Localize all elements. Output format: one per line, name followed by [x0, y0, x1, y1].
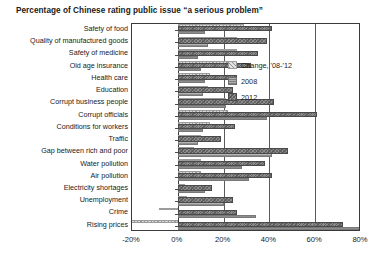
bar-2012	[178, 26, 272, 31]
bar-2012	[178, 51, 258, 56]
bar-2012	[178, 161, 265, 166]
category-label: Education	[0, 86, 128, 94]
category-label: Conditions for workers	[0, 123, 128, 131]
legend-label: 2012	[241, 93, 257, 102]
x-tick-label: 60%	[307, 235, 322, 244]
bar-row	[132, 171, 359, 183]
category-label: Safety of food	[0, 25, 128, 33]
bar-2008	[178, 80, 205, 83]
category-label: Health care	[0, 74, 128, 82]
chart-legend: Change, '08-'1220082012	[228, 58, 306, 106]
bar-row	[132, 195, 359, 207]
category-label: Gap between rich and poor	[0, 147, 128, 155]
bar-change	[131, 220, 178, 222]
bar-row	[132, 208, 359, 220]
bar-2008	[178, 68, 201, 71]
chart-title: Percentage of Chinese rating public issu…	[16, 6, 263, 15]
x-tick-label: 0%	[171, 235, 182, 244]
category-label: Unemployment	[0, 196, 128, 204]
x-tick-label: 80%	[352, 235, 367, 244]
bar-row	[132, 122, 359, 134]
legend-label: Change, '08-'12	[241, 61, 292, 70]
x-tick-label: 40%	[261, 235, 276, 244]
legend-label: 2008	[241, 77, 257, 86]
category-label: Safety of medicine	[0, 49, 128, 57]
bar-2012	[178, 124, 235, 129]
bar-row	[132, 220, 359, 231]
bar-2008	[178, 178, 249, 181]
legend-item: Change, '08-'12	[228, 58, 306, 72]
bar-2012	[178, 185, 212, 190]
x-tick-label: -20%	[122, 235, 140, 244]
category-label: Corrupt business people	[0, 98, 128, 106]
legend-swatch-icon	[228, 61, 237, 69]
legend-item: 2012	[228, 90, 306, 104]
bar-2008	[178, 129, 203, 132]
plot-area	[131, 23, 360, 231]
category-label: Corrupt officials	[0, 111, 128, 119]
bar-row	[132, 110, 359, 122]
bar-row	[132, 134, 359, 146]
category-label: Traffic	[0, 135, 128, 143]
bar-2008	[178, 43, 208, 46]
bar-2012	[178, 173, 272, 178]
category-label: Water pollution	[0, 160, 128, 168]
category-axis-labels: Safety of foodQuality of manufactured go…	[0, 23, 128, 231]
x-axis-labels: -20%0%20%40%60%80%	[0, 233, 365, 249]
bar-row	[132, 24, 359, 36]
bar-2008	[178, 166, 242, 169]
bar-2012	[178, 148, 288, 153]
legend-item: 2008	[228, 74, 306, 88]
bar-2012	[178, 222, 343, 227]
category-label: Quality of manufactured goods	[0, 37, 128, 45]
category-label: Old age insurance	[0, 62, 128, 70]
bar-row	[132, 146, 359, 158]
bar-row	[132, 183, 359, 195]
bar-2008	[178, 92, 203, 95]
category-label: Air pollution	[0, 172, 128, 180]
category-label: Electricity shortages	[0, 184, 128, 192]
category-label: Crime	[0, 208, 128, 216]
bar-2012	[178, 38, 267, 43]
bar-2012	[178, 197, 233, 202]
bar-2012	[178, 136, 222, 141]
bar-2012	[178, 112, 318, 117]
bar-change	[159, 208, 177, 210]
bar-2008	[178, 105, 226, 108]
legend-swatch-icon	[228, 77, 237, 85]
bar-2008	[178, 141, 199, 144]
bar-2012	[178, 87, 233, 92]
bar-2008	[178, 227, 360, 230]
bar-2012	[178, 210, 238, 215]
bar-2008	[178, 215, 256, 218]
bar-2008	[178, 56, 199, 59]
category-label: Rising prices	[0, 221, 128, 229]
bar-2008	[178, 190, 205, 193]
bar-row	[132, 36, 359, 48]
bar-row	[132, 159, 359, 171]
bar-2008	[178, 31, 205, 34]
x-tick-label: 20%	[215, 235, 230, 244]
bar-2008	[178, 202, 224, 205]
bar-2008	[178, 153, 272, 156]
legend-swatch-icon	[228, 93, 237, 101]
bar-2008	[178, 117, 267, 120]
bar-rows	[132, 24, 359, 230]
